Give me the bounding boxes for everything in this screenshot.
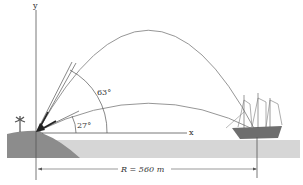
angle-arc-27 bbox=[72, 116, 76, 133]
launch-line-high bbox=[37, 62, 72, 131]
palm-tree-icon bbox=[15, 116, 25, 132]
angle-27-label: 27° bbox=[77, 121, 91, 130]
trajectory-low bbox=[38, 103, 255, 131]
range-label: R = 560 m bbox=[120, 165, 165, 174]
y-axis-label: y bbox=[32, 1, 38, 10]
water bbox=[40, 140, 300, 158]
projectile-diagram: y x 63° 27° R = 560 m bbox=[0, 0, 303, 185]
ship-icon bbox=[226, 93, 282, 139]
angle-63-label: 63° bbox=[97, 88, 111, 97]
velocity-arrow-icon bbox=[36, 112, 56, 132]
x-axis-label: x bbox=[189, 128, 194, 137]
